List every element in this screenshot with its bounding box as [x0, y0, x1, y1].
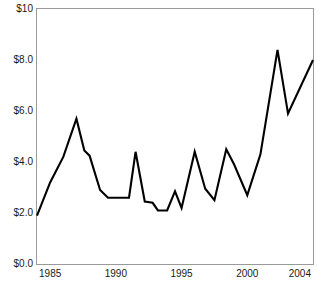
data-line [37, 50, 313, 216]
x-tick-label: 1995 [162, 268, 202, 279]
series-line [0, 0, 322, 291]
x-tick-label: 2000 [227, 268, 267, 279]
line-chart: $10$8.0$6.0$4.0$2.0$0.0 1985199019952000… [0, 0, 322, 291]
y-tick-label: $2.0 [0, 207, 33, 218]
y-tick-label: $10 [0, 3, 33, 14]
y-tick-label: $4.0 [0, 156, 33, 167]
y-tick-label: $0.0 [0, 258, 33, 269]
x-tick-label: 1985 [30, 268, 70, 279]
y-tick-label: $6.0 [0, 105, 33, 116]
y-tick-label: $8.0 [0, 54, 33, 65]
x-tick-label: 1990 [96, 268, 136, 279]
x-tick-label: 2004 [280, 268, 320, 279]
